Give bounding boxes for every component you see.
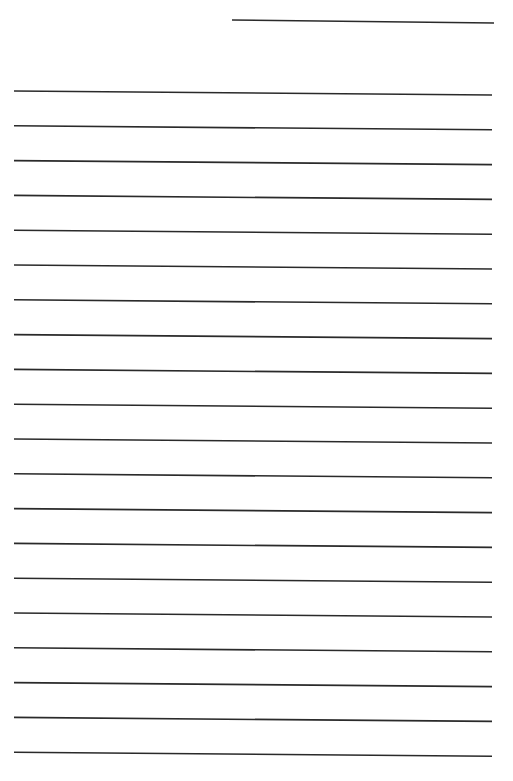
ruled-line xyxy=(14,543,492,547)
ruled-line xyxy=(14,230,492,234)
ruled-line xyxy=(14,439,492,443)
ruled-line xyxy=(14,161,492,165)
ruled-line xyxy=(14,474,492,478)
ruled-line xyxy=(14,265,492,269)
ruled-line xyxy=(14,300,492,304)
ruled-line xyxy=(14,578,492,582)
header-line xyxy=(232,20,494,23)
ruled-line xyxy=(14,91,492,95)
lined-paper-page xyxy=(0,0,513,781)
ruled-line xyxy=(14,126,492,130)
ruled-line xyxy=(14,369,492,373)
ruled-line xyxy=(14,717,492,721)
ruled-line xyxy=(14,752,492,756)
ruled-line xyxy=(14,404,492,408)
ruled-line xyxy=(14,683,492,687)
ruled-line xyxy=(14,335,492,339)
ruled-line xyxy=(14,648,492,652)
ruled-line xyxy=(14,509,492,513)
ruled-line xyxy=(14,613,492,617)
ruled-lines xyxy=(0,0,513,781)
ruled-line xyxy=(14,195,492,199)
ruled-lines-group xyxy=(14,91,492,756)
